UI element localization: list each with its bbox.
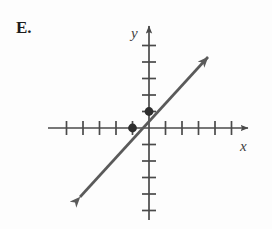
y-axis-label: y [129,25,138,41]
x-axis-label: x [239,138,247,154]
coordinate-plane-graph: x y [0,0,272,229]
point-y-intercept [145,107,154,116]
graph-figure-screenshot: E. [0,0,272,229]
point-x-intercept [128,124,137,133]
